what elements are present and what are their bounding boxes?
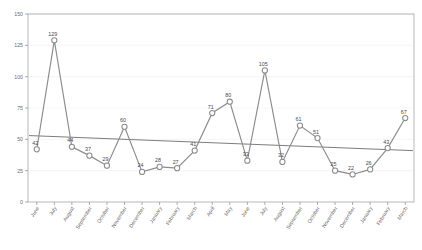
y-axis-tick-label: 150	[14, 11, 23, 17]
data-point-label: 41	[190, 141, 196, 147]
y-axis-tick-label: 75	[17, 105, 23, 111]
data-point-label: 105	[259, 61, 268, 67]
data-point-label: 24	[138, 162, 144, 168]
data-point-marker	[139, 169, 144, 174]
data-point-label: 51	[313, 129, 319, 135]
data-point-label: 60	[120, 117, 126, 123]
data-point-marker	[52, 38, 57, 43]
chart-canvas: 0255075100125150 JuneJulyAugustSeptember…	[0, 0, 422, 250]
data-point-label: 71	[208, 104, 214, 110]
data-point-marker	[350, 172, 355, 177]
y-axis-tick-label: 100	[14, 74, 23, 80]
data-point-marker	[385, 146, 390, 151]
y-axis-tick-label: 25	[17, 168, 23, 174]
data-point-marker	[157, 164, 162, 169]
data-point-label: 42	[32, 140, 38, 146]
data-point-label: 61	[295, 116, 301, 122]
data-point-label: 22	[348, 165, 354, 171]
data-point-marker	[262, 68, 267, 73]
data-point-marker	[175, 166, 180, 171]
data-point-label: 80	[225, 92, 231, 98]
data-point-marker	[280, 159, 285, 164]
data-point-marker	[69, 144, 74, 149]
y-axis-tick-label: 0	[20, 199, 23, 205]
data-point-marker	[403, 115, 408, 120]
y-axis-tick-label: 50	[17, 136, 23, 142]
data-point-label: 26	[366, 160, 372, 166]
data-point-label: 25	[331, 161, 337, 167]
data-point-label: 44	[67, 137, 73, 143]
data-point-label: 33	[243, 151, 249, 157]
data-point-label: 43	[383, 139, 389, 145]
data-point-label: 67	[401, 109, 407, 115]
y-axis-tick-label: 125	[14, 42, 23, 48]
data-point-marker	[122, 124, 127, 129]
data-point-marker	[192, 148, 197, 153]
data-point-label: 129	[48, 31, 57, 37]
data-point-label: 29	[102, 156, 108, 162]
data-point-marker	[210, 110, 215, 115]
data-point-marker	[332, 168, 337, 173]
data-point-marker	[34, 147, 39, 152]
data-point-marker	[104, 163, 109, 168]
data-point-label: 37	[85, 146, 91, 152]
data-point-marker	[315, 135, 320, 140]
data-point-marker	[297, 123, 302, 128]
data-point-marker	[245, 158, 250, 163]
data-point-label: 32	[278, 152, 284, 158]
data-point-marker	[368, 167, 373, 172]
data-point-marker	[227, 99, 232, 104]
line-chart: 0255075100125150 JuneJulyAugustSeptember…	[0, 0, 422, 250]
data-point-label: 27	[173, 159, 179, 165]
data-point-marker	[87, 153, 92, 158]
data-point-label: 28	[155, 157, 161, 163]
